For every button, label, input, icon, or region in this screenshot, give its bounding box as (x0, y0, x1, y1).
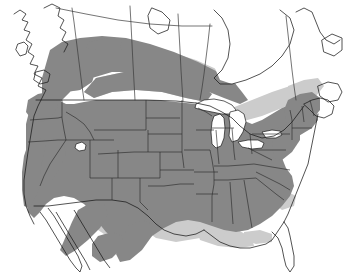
north-america-range-map (0, 0, 344, 275)
distribution-map-figure: Core range Peripheral range Absent (0, 0, 344, 275)
